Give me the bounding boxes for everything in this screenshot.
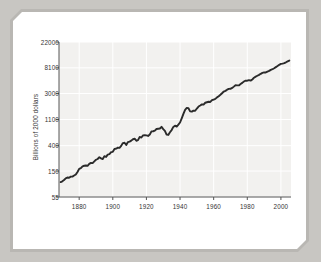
- tick-label-x: 1940: [165, 203, 195, 210]
- tick-label-x: 1960: [199, 203, 229, 210]
- y-axis-title-text: Billions of 2000 dollars: [32, 94, 39, 161]
- x-axis-tick-labels: 1880190019201940196019802000: [13, 12, 312, 255]
- tick-label-x: 2000: [266, 203, 296, 210]
- figure-panel: 2200081003000110040015055 18801900192019…: [13, 12, 306, 249]
- figure-outer-frame: 2200081003000110040015055 18801900192019…: [10, 9, 309, 252]
- tick-label-x: 1900: [98, 203, 128, 210]
- y-axis-title: Billions of 2000 dollars: [29, 67, 41, 187]
- tick-label-x: 1980: [232, 203, 262, 210]
- tick-label-x: 1920: [131, 203, 161, 210]
- tick-label-x: 1880: [64, 203, 94, 210]
